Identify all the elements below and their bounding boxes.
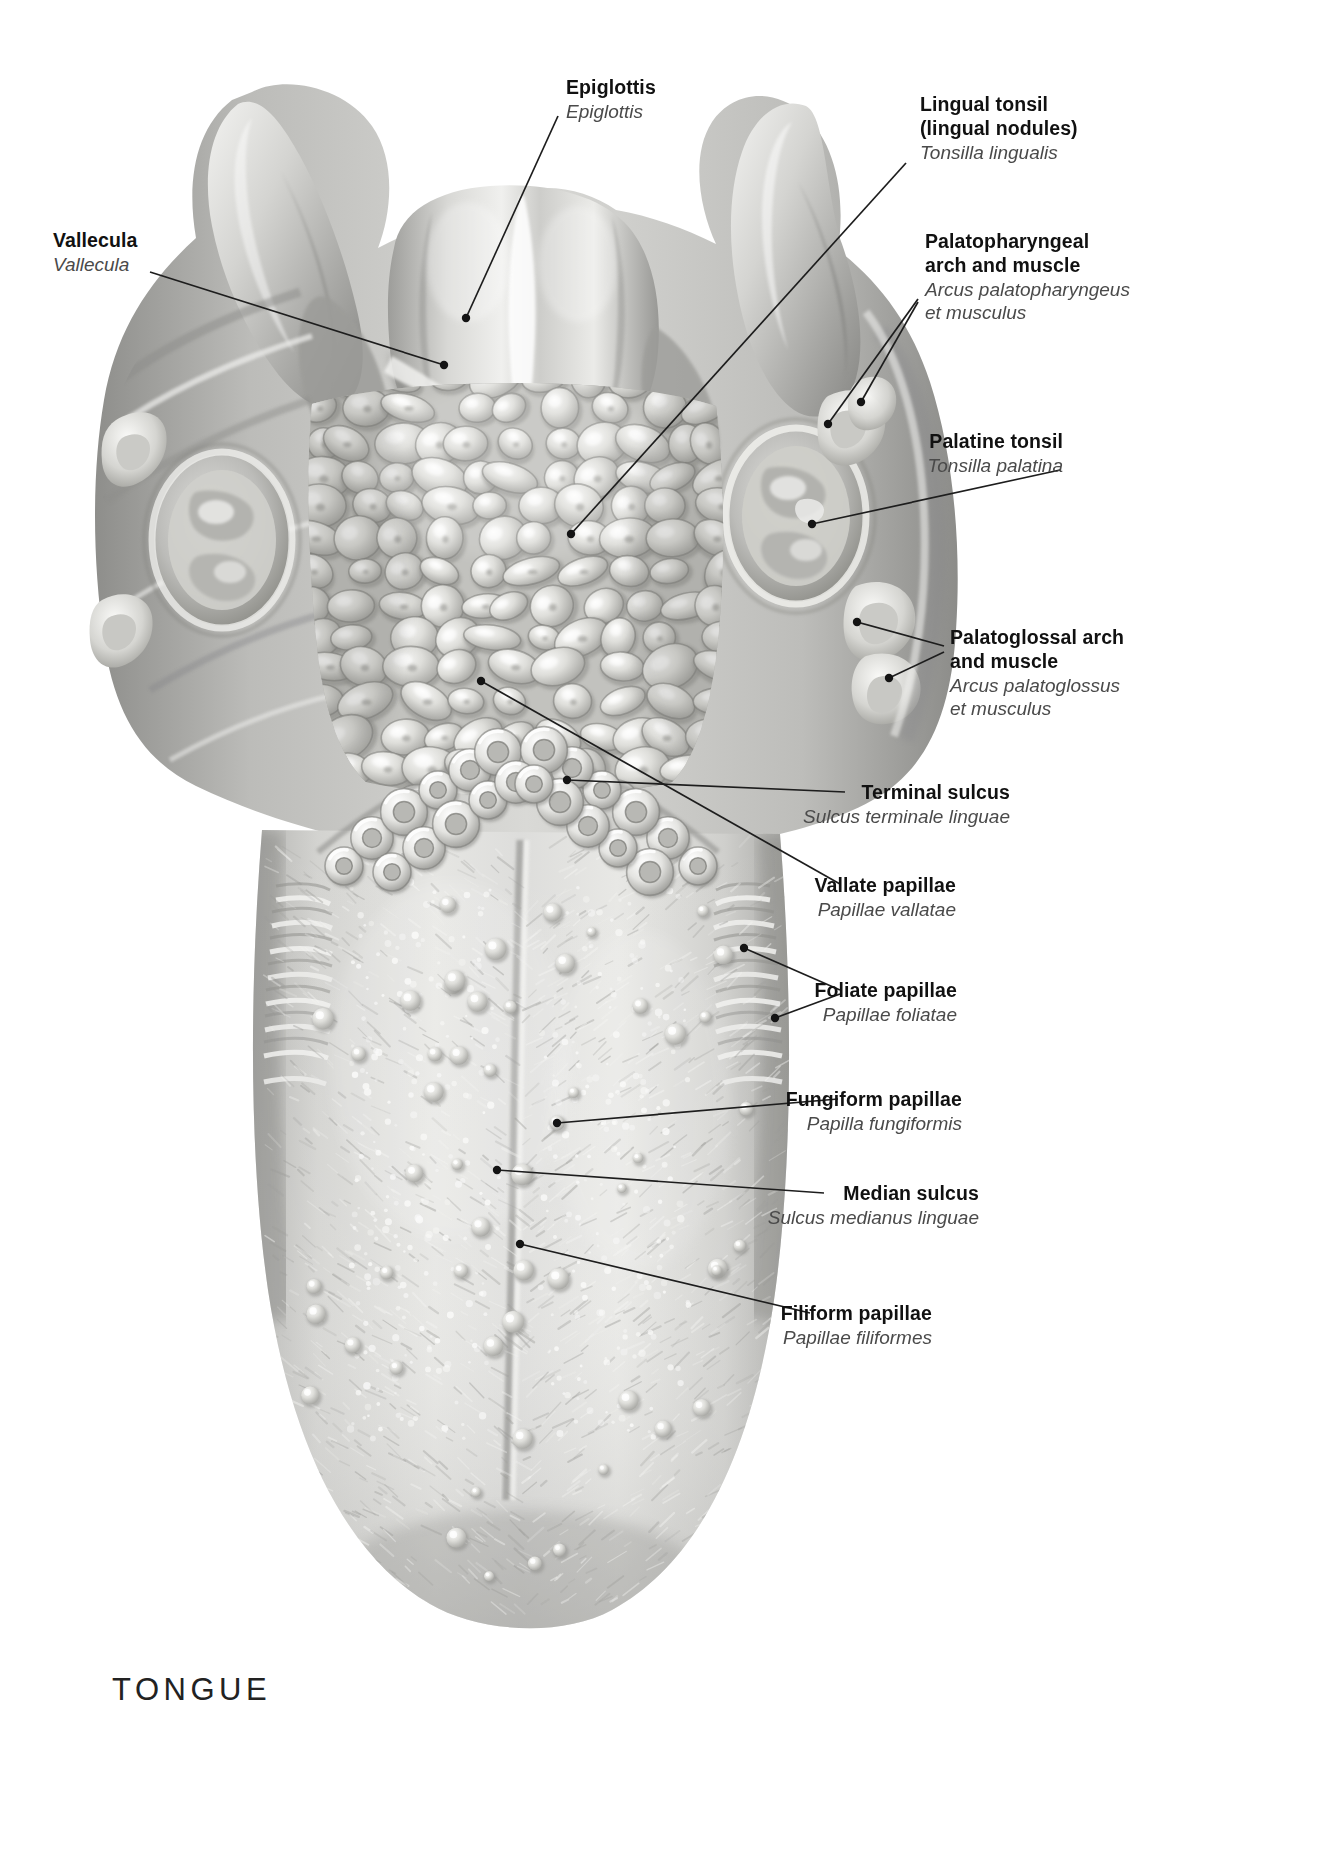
label-terminal-sulcus-en-line-1: Terminal sulcus <box>803 781 1010 805</box>
label-foliate-papillae-en-line-1: Foliate papillae <box>815 979 957 1003</box>
label-vallate-papillae-la-line-1: Papillae vallatae <box>815 898 956 921</box>
label-fungiform-papillae-en-line-1: Fungiform papillae <box>786 1088 962 1112</box>
page-title: TONGUE <box>112 1672 271 1708</box>
label-fungiform-papillae-la-line-1: Papilla fungiformis <box>786 1112 962 1135</box>
pharyngeal-region <box>90 84 958 835</box>
label-palatine-tonsil: Palatine tonsilTonsilla palatina <box>927 430 1063 477</box>
label-foliate-papillae-la-line-1: Papillae foliatae <box>815 1003 957 1026</box>
label-lingual-tonsil-en-line-1: Lingual tonsil <box>920 93 1078 117</box>
label-terminal-sulcus: Terminal sulcusSulcus terminale linguae <box>803 781 1010 828</box>
label-epiglottis-la-line-1: Epiglottis <box>566 100 656 123</box>
label-vallecula-la-line-1: Vallecula <box>53 253 137 276</box>
label-palatopharyngeal-arch-la-line-2: et musculus <box>925 301 1130 324</box>
label-vallecula-en-line-1: Vallecula <box>53 229 137 253</box>
label-terminal-sulcus-la-line-1: Sulcus terminale linguae <box>803 805 1010 828</box>
tongue-anatomical-illustration <box>0 0 1344 1854</box>
label-lingual-tonsil-la-line-1: Tonsilla lingualis <box>920 141 1078 164</box>
label-palatoglossal-arch-la-line-1: Arcus palatoglossus <box>950 674 1124 697</box>
label-palatopharyngeal-arch-en-line-2: arch and muscle <box>925 254 1130 278</box>
label-palatoglossal-arch-en-line-1: Palatoglossal arch <box>950 626 1124 650</box>
illustration-plate: EpiglottisEpiglottisLingual tonsil(lingu… <box>0 0 1344 1854</box>
label-palatopharyngeal-arch-la-line-1: Arcus palatopharyngeus <box>925 278 1130 301</box>
label-foliate-papillae: Foliate papillaePapillae foliatae <box>815 979 957 1026</box>
label-median-sulcus-la-line-1: Sulcus medianus linguae <box>768 1206 979 1229</box>
label-palatine-tonsil-en-line-1: Palatine tonsil <box>927 430 1063 454</box>
label-vallate-papillae: Vallate papillaePapillae vallatae <box>815 874 956 921</box>
label-median-sulcus: Median sulcusSulcus medianus linguae <box>768 1182 979 1229</box>
label-epiglottis-en-line-1: Epiglottis <box>566 76 656 100</box>
label-vallate-papillae-en-line-1: Vallate papillae <box>815 874 956 898</box>
label-palatoglossal-arch-en-line-2: and muscle <box>950 650 1124 674</box>
label-palatoglossal-arch-la-line-2: et musculus <box>950 697 1124 720</box>
label-lingual-tonsil-en-line-2: (lingual nodules) <box>920 117 1078 141</box>
label-palatoglossal-arch: Palatoglossal archand muscleArcus palato… <box>950 626 1124 720</box>
label-lingual-tonsil: Lingual tonsil(lingual nodules)Tonsilla … <box>920 93 1078 164</box>
label-filiform-papillae: Filiform papillaePapillae filiformes <box>781 1302 932 1349</box>
label-median-sulcus-en-line-1: Median sulcus <box>768 1182 979 1206</box>
label-filiform-papillae-en-line-1: Filiform papillae <box>781 1302 932 1326</box>
label-palatopharyngeal-arch: Palatopharyngealarch and muscleArcus pal… <box>925 230 1130 324</box>
label-palatopharyngeal-arch-en-line-1: Palatopharyngeal <box>925 230 1130 254</box>
label-palatine-tonsil-la-line-1: Tonsilla palatina <box>927 454 1063 477</box>
label-fungiform-papillae: Fungiform papillaePapilla fungiformis <box>786 1088 962 1135</box>
label-vallecula: ValleculaVallecula <box>53 229 137 276</box>
left-palatine-tonsil <box>144 444 300 636</box>
label-filiform-papillae-la-line-1: Papillae filiformes <box>781 1326 932 1349</box>
label-epiglottis: EpiglottisEpiglottis <box>566 76 656 123</box>
